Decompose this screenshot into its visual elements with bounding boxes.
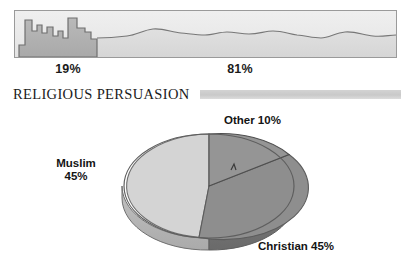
pie-label-muslim-value: 45% [38, 170, 114, 183]
pie-chart-canvas [112, 118, 307, 253]
split-area-chart-canvas [15, 11, 396, 57]
pie-label-other: Other 10% [224, 114, 281, 127]
pie-label-muslim-name: Muslim [56, 157, 96, 169]
heading-rule-bar [200, 90, 401, 99]
religion-pie-chart [112, 118, 307, 253]
pie-label-christian: Christian 45% [258, 240, 334, 253]
infographic-root: 19% 81% RELIGIOUS PERSUASION [0, 0, 401, 269]
minority-percent-label: 19% [38, 62, 98, 76]
split-area-chart [14, 10, 397, 58]
pie-label-muslim: Muslim 45% [38, 157, 114, 183]
majority-percent-label: 81% [210, 62, 270, 76]
section-heading: RELIGIOUS PERSUASION [13, 86, 190, 103]
